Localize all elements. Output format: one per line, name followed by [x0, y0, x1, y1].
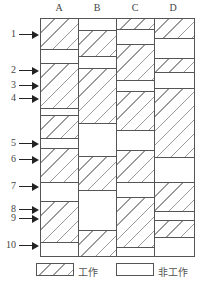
time-marker: 2 [0, 66, 40, 76]
marker-number: 1 [2, 28, 16, 39]
work-segment [117, 44, 154, 80]
work-segment [155, 58, 194, 72]
arrow-shaft [19, 159, 33, 160]
arrow-right-icon [32, 82, 39, 90]
marker-number: 3 [2, 79, 16, 90]
time-marker: 1 [0, 30, 40, 40]
legend: 工作 非工作 [0, 263, 202, 279]
column-b [78, 18, 116, 257]
timeline-frame [40, 18, 194, 257]
idle-segment [79, 190, 116, 230]
legend-idle-swatch [116, 263, 154, 276]
marker-number: 6 [2, 153, 16, 164]
arrow-right-icon [32, 31, 39, 39]
arrow-right-icon [32, 140, 39, 148]
marker-number: 4 [2, 92, 16, 103]
idle-segment [117, 130, 154, 150]
time-marker: 4 [0, 94, 40, 104]
work-segment [41, 148, 78, 182]
arrow-shaft [19, 34, 33, 35]
idle-segment [117, 80, 154, 91]
work-segment [117, 91, 154, 130]
work-segment [41, 201, 78, 242]
time-marker: 9 [0, 214, 40, 224]
arrow-right-icon [32, 67, 39, 75]
arrow-right-icon [32, 215, 39, 223]
idle-segment [155, 237, 194, 257]
arrow-shaft [19, 245, 33, 246]
marker-number: 9 [2, 212, 16, 223]
work-segment [79, 230, 116, 257]
work-segment [155, 182, 194, 211]
legend-idle-label: 非工作 [158, 264, 188, 279]
work-segment [79, 68, 116, 123]
idle-segment [41, 138, 78, 148]
arrow-right-icon [32, 156, 39, 164]
arrow-right-icon [32, 95, 39, 103]
column-a [40, 18, 78, 257]
idle-segment [117, 182, 154, 197]
marker-number: 7 [2, 180, 16, 191]
marker-number: 5 [2, 137, 16, 148]
idle-segment [41, 49, 78, 63]
arrow-right-icon [32, 183, 39, 191]
arrow-shaft [19, 143, 33, 144]
work-segment [155, 18, 194, 38]
work-segment [41, 115, 78, 138]
legend-work-swatch [36, 263, 74, 276]
legend-work-label: 工作 [78, 264, 98, 279]
work-segment [79, 156, 116, 190]
idle-segment [155, 38, 194, 58]
arrow-right-icon [32, 242, 39, 250]
work-segment [117, 197, 154, 247]
arrow-shaft [19, 209, 33, 210]
column-label-b: B [78, 2, 116, 13]
work-segment [41, 18, 78, 49]
arrow-shaft [19, 85, 33, 86]
work-segment [155, 88, 194, 157]
idle-segment [41, 108, 78, 115]
column-c [116, 18, 154, 257]
arrow-shaft [19, 218, 33, 219]
time-marker: 3 [0, 81, 40, 91]
idle-segment [155, 72, 194, 88]
idle-segment [117, 29, 154, 44]
time-marker: 5 [0, 139, 40, 149]
idle-segment [41, 182, 78, 201]
idle-segment [155, 211, 194, 220]
idle-segment [79, 18, 116, 30]
work-segment [117, 150, 154, 182]
idle-segment [155, 157, 194, 182]
marker-number: 2 [2, 64, 16, 75]
idle-segment [41, 242, 78, 257]
idle-segment [79, 123, 116, 156]
column-label-c: C [116, 2, 154, 13]
work-segment [41, 63, 78, 108]
time-marker: 10 [0, 241, 40, 251]
arrow-right-icon [32, 206, 39, 214]
idle-segment [79, 56, 116, 68]
work-segment [155, 220, 194, 237]
column-label-d: D [154, 2, 192, 13]
idle-segment [117, 247, 154, 257]
arrow-shaft [19, 186, 33, 187]
time-marker: 6 [0, 155, 40, 165]
arrow-shaft [19, 98, 33, 99]
column-d [154, 18, 195, 257]
time-marker: 7 [0, 182, 40, 192]
work-segment [79, 30, 116, 56]
marker-number: 10 [2, 239, 16, 250]
work-segment [117, 18, 154, 29]
arrow-shaft [19, 70, 33, 71]
column-label-a: A [40, 2, 78, 13]
